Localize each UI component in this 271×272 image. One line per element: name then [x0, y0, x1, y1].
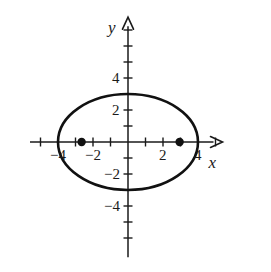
- focus-right: [175, 138, 183, 146]
- y-axis-label: y: [108, 19, 116, 36]
- x-tick-label: 2: [159, 148, 167, 163]
- x-tick-label: 4: [194, 148, 202, 163]
- y-tick-label: 2: [112, 103, 120, 118]
- ellipse-figure: x y −4−22442−2−4: [0, 0, 271, 272]
- x-tick-label: −4: [50, 148, 66, 163]
- focus-left: [77, 138, 85, 146]
- y-tick-label: −2: [104, 167, 120, 182]
- plot-canvas: [0, 0, 271, 272]
- x-axis-label: x: [209, 154, 217, 171]
- y-tick-label: 4: [112, 71, 120, 86]
- x-tick-label: −2: [85, 148, 101, 163]
- y-tick-label: −4: [104, 199, 120, 214]
